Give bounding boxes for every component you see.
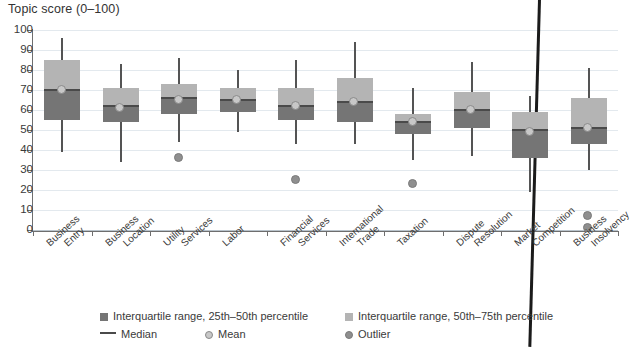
y-axis-label-60: 60 [7, 104, 33, 116]
x-tick-5 [326, 231, 327, 236]
outlier-marker [408, 179, 417, 188]
box-plot-chart: Topic score (0–100) Interquartile range,… [0, 0, 631, 347]
mean-marker [57, 85, 66, 94]
gridline-90 [33, 50, 618, 51]
mean-marker [232, 95, 241, 104]
mean-marker [174, 95, 183, 104]
x-tick-6 [384, 231, 385, 236]
y-axis-label-40: 40 [7, 144, 33, 156]
y-axis-label-10: 10 [7, 204, 33, 216]
iqr-lower-box [44, 90, 80, 120]
legend-label: Interquartile range, 25th–50th percentil… [113, 310, 308, 322]
y-axis-label-70: 70 [7, 84, 33, 96]
outlier-marker [291, 175, 300, 184]
x-tick-7 [443, 231, 444, 236]
legend: Interquartile range, 25th–50th percentil… [0, 306, 631, 347]
outlier-marker [174, 153, 183, 162]
mean-marker [583, 123, 592, 132]
mean-marker [408, 117, 417, 126]
legend-swatch-median-icon [100, 332, 116, 334]
y-axis-label-20: 20 [7, 184, 33, 196]
legend-item-outlier: Outlier [345, 328, 390, 340]
y-axis-label-80: 80 [7, 64, 33, 76]
y-axis-label-100: 100 [7, 24, 33, 36]
outlier-marker [583, 211, 592, 220]
x-tick-end [618, 231, 619, 236]
x-tick-4 [267, 231, 268, 236]
y-axis-label-50: 50 [7, 124, 33, 136]
legend-label: Mean [218, 328, 246, 340]
gridline-100 [33, 30, 618, 31]
x-tick-0 [33, 231, 34, 236]
mean-marker [291, 101, 300, 110]
legend-item-median: Median [100, 328, 157, 340]
mean-marker [349, 97, 358, 106]
x-tick-3 [209, 231, 210, 236]
x-tick-1 [92, 231, 93, 236]
legend-item-iqr-lower: Interquartile range, 25th–50th percentil… [100, 310, 308, 322]
legend-label: Interquartile range, 50th–75th percentil… [358, 310, 553, 322]
mean-marker [466, 105, 475, 114]
legend-item-iqr-upper: Interquartile range, 50th–75th percentil… [345, 310, 553, 322]
y-axis-label-0: 0 [7, 224, 33, 236]
mean-marker [525, 127, 534, 136]
legend-item-mean: Mean [205, 328, 246, 340]
x-tick-8 [501, 231, 502, 236]
gridline-10 [33, 210, 618, 211]
legend-swatch-iqr-lower-icon [100, 313, 108, 321]
y-axis-label-90: 90 [7, 44, 33, 56]
mean-marker [115, 103, 124, 112]
x-tick-2 [150, 231, 151, 236]
legend-swatch-iqr-upper-icon [345, 313, 353, 321]
legend-label: Median [121, 328, 157, 340]
x-tick-9 [560, 231, 561, 236]
legend-label: Outlier [358, 328, 390, 340]
legend-swatch-mean-icon [205, 331, 213, 339]
legend-swatch-outlier-icon [345, 331, 353, 339]
y-axis-label-30: 30 [7, 164, 33, 176]
page-title: Topic score (0–100) [8, 2, 120, 16]
